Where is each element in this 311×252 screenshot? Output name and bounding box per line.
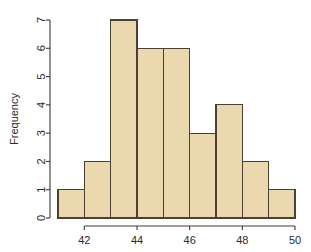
histogram-canvas: 01234567 4244464850 Frequency bbox=[0, 0, 311, 252]
y-tick-label: 7 bbox=[35, 17, 47, 23]
histogram-bar bbox=[84, 161, 110, 218]
y-tick-label: 6 bbox=[35, 45, 47, 51]
histogram-figure: 01234567 4244464850 Frequency bbox=[0, 0, 311, 252]
x-tick-label: 44 bbox=[131, 234, 143, 246]
y-tick-label: 5 bbox=[35, 74, 47, 80]
histogram-bar bbox=[216, 105, 242, 218]
histogram-bar bbox=[111, 20, 137, 218]
x-tick-label: 50 bbox=[289, 234, 301, 246]
histogram-bar bbox=[58, 190, 84, 218]
y-tick-label: 3 bbox=[35, 130, 47, 136]
y-axis-title: Frequency bbox=[8, 93, 20, 145]
x-tick-label: 48 bbox=[236, 234, 248, 246]
histogram-bar bbox=[269, 190, 295, 218]
x-tick-label: 42 bbox=[78, 234, 90, 246]
y-tick-label: 2 bbox=[35, 158, 47, 164]
y-tick-label: 4 bbox=[35, 102, 47, 108]
histogram-bar bbox=[137, 48, 163, 218]
histogram-bar bbox=[163, 48, 189, 218]
y-tick-label: 0 bbox=[35, 215, 47, 221]
histogram-bar bbox=[242, 161, 268, 218]
histogram-bar bbox=[190, 133, 216, 218]
y-tick-label: 1 bbox=[35, 187, 47, 193]
x-tick-label: 46 bbox=[184, 234, 196, 246]
